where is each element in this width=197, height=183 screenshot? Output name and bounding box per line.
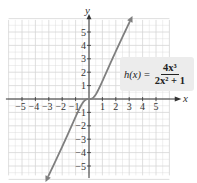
- y-axis-label: y: [84, 4, 90, 16]
- svg-text:−2: −2: [75, 120, 86, 131]
- formula-equals: =: [144, 69, 150, 80]
- svg-text:2: 2: [113, 101, 118, 112]
- x-axis-label: x: [182, 92, 188, 104]
- svg-text:−5: −5: [75, 161, 86, 172]
- svg-text:−4: −4: [75, 147, 86, 158]
- svg-text:5: 5: [81, 27, 86, 38]
- svg-text:−3: −3: [75, 134, 86, 145]
- svg-text:4: 4: [81, 40, 86, 51]
- formula-denominator: 2x² + 1: [153, 75, 187, 87]
- svg-text:4: 4: [140, 101, 145, 112]
- svg-text:1: 1: [100, 101, 105, 112]
- svg-text:3: 3: [81, 53, 86, 64]
- formula-lhs: h(x): [124, 69, 141, 80]
- svg-text:−4: −4: [29, 101, 40, 112]
- svg-text:3: 3: [127, 101, 132, 112]
- svg-text:−5: −5: [15, 101, 26, 112]
- svg-text:1: 1: [81, 80, 86, 91]
- formula-fraction: 4x³ 2x² + 1: [153, 62, 187, 87]
- function-formula: h(x) = 4x³ 2x² + 1: [124, 60, 187, 88]
- function-graph: −5−4−3−2−11234554321−1−2−3−4−5 x y: [0, 0, 197, 183]
- svg-text:5: 5: [154, 101, 159, 112]
- svg-text:−2: −2: [55, 101, 66, 112]
- formula-numerator: 4x³: [161, 62, 179, 75]
- svg-text:2: 2: [81, 67, 86, 78]
- svg-text:−3: −3: [42, 101, 53, 112]
